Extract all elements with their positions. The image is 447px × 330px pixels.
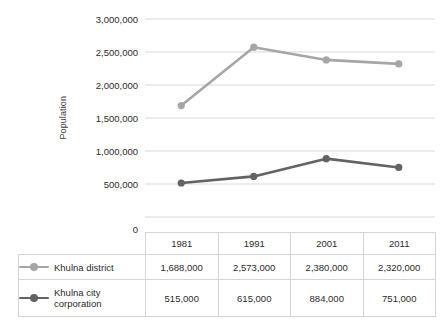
data-table: 1981 1991 2001 2011 Khulna district <box>18 232 436 317</box>
data-point-marker[interactable] <box>178 179 185 186</box>
legend-dot-marker <box>30 294 38 302</box>
data-point-marker[interactable] <box>323 56 330 63</box>
series-2 <box>178 155 403 187</box>
legend-dot-marker <box>30 263 38 271</box>
table-cell-value: 1,688,000 <box>146 255 219 280</box>
table-header-row: 1981 1991 2001 2011 <box>19 233 436 255</box>
table-cell-value: 515,000 <box>146 280 219 317</box>
table-row: Khulna city corporation 515,000 615,000 … <box>19 280 436 317</box>
data-point-marker[interactable] <box>250 44 257 51</box>
column-header-year: 2001 <box>291 233 364 255</box>
table-cell-value: 884,000 <box>291 280 364 317</box>
column-header-year: 1991 <box>218 233 291 255</box>
data-point-marker[interactable] <box>395 60 402 67</box>
table-cell-value: 615,000 <box>218 280 291 317</box>
data-point-marker[interactable] <box>395 164 402 171</box>
legend-label: Khulna city corporation <box>54 287 102 309</box>
series-line <box>181 47 399 105</box>
column-header-year: 2011 <box>363 233 436 255</box>
table-row: Khulna district 1,688,000 2,573,000 2,38… <box>19 255 436 280</box>
legend-item-khulna-city-corporation[interactable]: Khulna city corporation <box>19 280 146 317</box>
data-point-marker[interactable] <box>323 155 330 162</box>
table-cell-value: 751,000 <box>363 280 436 317</box>
data-point-marker[interactable] <box>178 102 185 109</box>
legend-label-line-1: Khulna district <box>54 262 114 273</box>
series-1 <box>178 44 403 110</box>
line-chart-svg <box>0 0 447 240</box>
data-point-marker[interactable] <box>250 173 257 180</box>
legend-marker-icon <box>19 262 49 272</box>
table-cell-value: 2,573,000 <box>218 255 291 280</box>
table-corner-cell <box>19 233 146 255</box>
legend-label: Khulna district <box>54 262 114 273</box>
column-header-year: 1981 <box>146 233 219 255</box>
series-line <box>181 159 399 183</box>
series-layer <box>178 44 403 187</box>
legend-label-line-1: Khulna city <box>54 287 100 298</box>
legend-label-line-2: corporation <box>54 298 102 309</box>
legend-item-khulna-district[interactable]: Khulna district <box>19 255 146 280</box>
table-cell-value: 2,380,000 <box>291 255 364 280</box>
chart-page: Population 3,000,000 2,500,000 2,000,000… <box>0 0 447 330</box>
gridlines <box>145 19 435 217</box>
legend-marker-icon <box>19 293 49 303</box>
table-cell-value: 2,320,000 <box>363 255 436 280</box>
plot-region: Population 3,000,000 2,500,000 2,000,000… <box>0 0 447 240</box>
